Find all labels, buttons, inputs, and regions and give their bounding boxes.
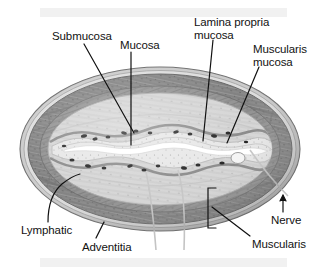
label-muscularis-mucosa: Muscularis mucosa — [253, 43, 307, 68]
label-lamina-propria-mucosa: Lamina propria mucosa — [194, 16, 269, 41]
arrowhead-nerve — [280, 195, 286, 201]
leader-adventitia — [96, 222, 104, 238]
label-submucosa: Submucosa — [52, 30, 112, 43]
label-muscularis: Muscularis — [252, 238, 306, 251]
oval-shading — [20, 67, 300, 231]
label-adventitia: Adventitia — [82, 241, 132, 254]
label-nerve: Nerve — [271, 214, 301, 227]
label-mucosa: Mucosa — [120, 39, 160, 52]
label-lymphatic: Lymphatic — [21, 224, 72, 237]
figure-canvas: Submucosa Mucosa Lamina propria mucosa M… — [0, 0, 323, 276]
